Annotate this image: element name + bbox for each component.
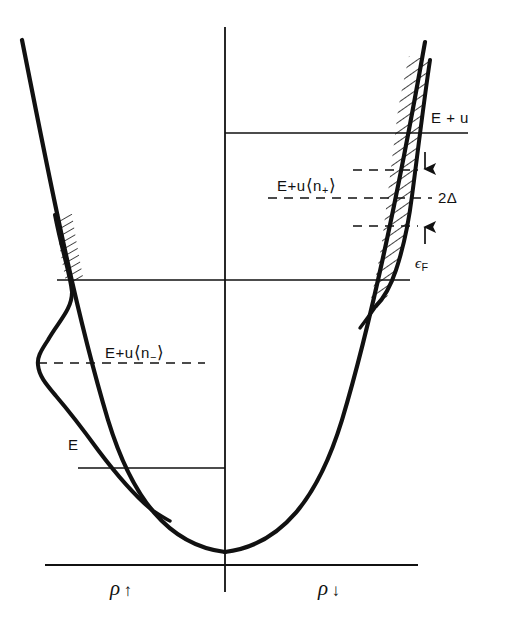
label-bracket-open-plus: ⟨ [306,176,314,195]
label-two-delta: 2Δ [438,190,457,205]
axes [45,27,418,592]
spin-down-arrow-icon: ↓ [332,582,341,599]
label-e-plus-u-n-minus-main: E+u [105,344,134,361]
label-e-level: E [68,437,79,452]
parabola-right-branch [225,42,425,552]
label-e-plus-u-n-minus: E+u⟨n−⟩ [105,345,164,363]
label-fermi-subscript: F [422,261,429,273]
parabola-left-branch [22,40,225,552]
rho-symbol-up: ρ [110,576,121,600]
label-n-plus: n [313,177,322,194]
label-e-plus-u-n-plus-main: E+u [277,177,306,194]
label-rho-spin-up: ρ↑ [110,578,133,599]
label-n-minus: n [141,344,150,361]
hatched-regions [55,56,430,305]
label-e-level-text: E [68,436,79,453]
label-bracket-open-minus: ⟨ [134,343,142,362]
label-e-plus-u: E + u [431,110,469,125]
label-rho-spin-down: ρ↓ [318,578,341,599]
parabolic-band [22,40,425,552]
label-fermi-energy: ϵF [415,255,429,273]
label-e-plus-u-n-plus: E+u⟨n+⟩ [277,178,336,196]
label-e-plus-u-text: E + u [431,109,469,126]
label-bracket-close-plus: ⟩ [329,176,337,195]
dos-diagram-svg [0,0,509,628]
spin-up-arrow-icon: ↑ [124,582,133,599]
label-bracket-close-minus: ⟩ [157,343,165,362]
label-n-minus-subscript: − [150,351,157,363]
dashed-level-lines [38,170,432,363]
label-n-plus-subscript: + [322,184,329,196]
figure-canvas: E + u E+u⟨n+⟩ 2Δ ϵF E+u⟨n−⟩ E ρ↑ ρ↓ [0,0,509,628]
rho-symbol-down: ρ [318,576,329,600]
label-two-delta-text: 2Δ [438,189,457,206]
